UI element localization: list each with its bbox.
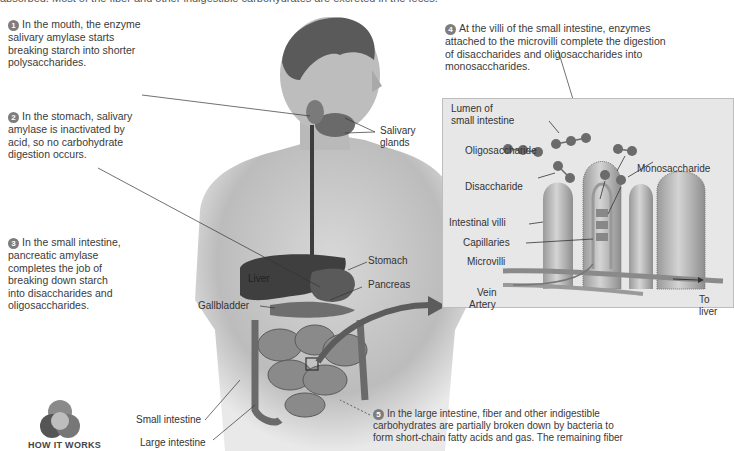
step-1-callout: 1In the mouth, the enzyme salivary amyla… bbox=[8, 18, 148, 69]
step-number-badge: 3 bbox=[8, 238, 19, 249]
label-disaccharide: Disaccharide bbox=[465, 181, 523, 193]
label-oligosaccharide: Oligosaccharide bbox=[465, 145, 537, 157]
human-body bbox=[195, 17, 470, 451]
villi-inset-panel: Lumen of small intestine Oligosaccharide… bbox=[442, 98, 734, 308]
artery bbox=[503, 285, 643, 294]
molecules bbox=[503, 133, 637, 185]
label-large-intestine: Large intestine bbox=[140, 437, 206, 449]
step-number-badge: 1 bbox=[8, 20, 19, 31]
step-5-callout: 5In the large intestine, fiber and other… bbox=[373, 408, 713, 444]
label-monosaccharide: Monosaccharide bbox=[637, 163, 710, 175]
label-artery: Artery bbox=[469, 299, 496, 311]
label-stomach: Stomach bbox=[368, 255, 407, 267]
label-vein: Vein bbox=[477, 287, 496, 299]
how-it-works-logo bbox=[32, 396, 112, 446]
label-salivary-glands: Salivary glands bbox=[380, 125, 416, 149]
step-number-badge: 2 bbox=[8, 112, 19, 123]
label-gallbladder: Gallbladder bbox=[198, 300, 249, 312]
label-small-intestine: Small intestine bbox=[136, 414, 201, 426]
how-it-works-label: HOW IT WORKS bbox=[28, 440, 101, 450]
step-number-badge: 5 bbox=[373, 409, 384, 420]
step-3-callout: 3In the small intestine, pancreatic amyl… bbox=[8, 236, 138, 312]
label-liver: Liver bbox=[248, 273, 270, 285]
step-2-callout: 2In the stomach, salivary amylase is ina… bbox=[8, 110, 148, 161]
inset-title: Lumen of small intestine bbox=[451, 103, 514, 127]
label-to-liver: To liver bbox=[699, 294, 717, 318]
step-number-badge: 4 bbox=[445, 24, 456, 35]
villi-illustration bbox=[443, 99, 733, 307]
label-microvilli: Microvilli bbox=[467, 256, 505, 268]
step-4-callout: 4At the villi of the small intestine, en… bbox=[445, 22, 715, 73]
label-capillaries: Capillaries bbox=[463, 237, 510, 249]
label-pancreas: Pancreas bbox=[368, 279, 410, 291]
label-intestinal-villi: Intestinal villi bbox=[449, 217, 506, 229]
